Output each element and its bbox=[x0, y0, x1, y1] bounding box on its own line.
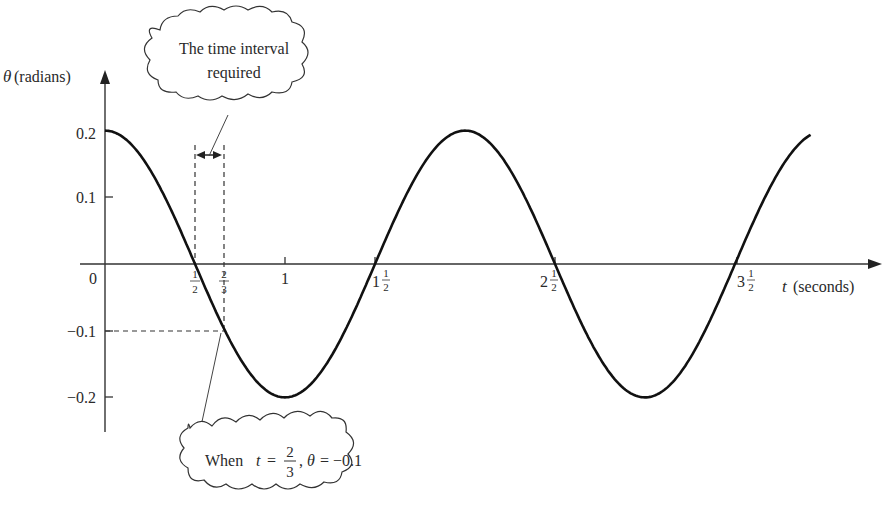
top-callout-line2: required bbox=[207, 64, 260, 82]
svg-text:3: 3 bbox=[221, 283, 227, 295]
x-tick-1-and-half: 1 1 2 bbox=[372, 267, 390, 293]
bottom-callout-frac-num: 2 bbox=[286, 444, 294, 460]
svg-text:2: 2 bbox=[383, 281, 389, 293]
svg-text:2: 2 bbox=[192, 283, 198, 295]
chart-canvas: The time interval required When t = 2 3 … bbox=[0, 0, 888, 517]
y-tick-neg0.1: −0.1 bbox=[67, 323, 96, 340]
bottom-cloud-callout bbox=[180, 411, 354, 489]
svg-text:1: 1 bbox=[372, 273, 380, 290]
svg-text:2: 2 bbox=[221, 268, 227, 280]
svg-text:1: 1 bbox=[192, 268, 198, 280]
y-axis-unit: (radians) bbox=[14, 68, 71, 86]
bottom-callout-comma: , bbox=[299, 452, 303, 469]
bottom-callout-frac-den: 3 bbox=[286, 464, 294, 480]
y-axis-arrow-icon bbox=[100, 70, 110, 84]
x-axis-unit: (seconds) bbox=[793, 278, 854, 296]
x-axis-arrow-icon bbox=[868, 259, 882, 269]
top-callout-line1: The time interval bbox=[179, 40, 290, 57]
svg-text:3: 3 bbox=[737, 273, 745, 290]
x-tick-2-and-half: 2 1 2 bbox=[540, 267, 558, 293]
svg-text:2: 2 bbox=[748, 281, 754, 293]
x-tick-1: 1 bbox=[281, 270, 289, 287]
y-tick-neg0.2: −0.2 bbox=[67, 389, 96, 406]
bottom-callout-when: When bbox=[205, 452, 243, 469]
top-callout-pointer bbox=[209, 115, 228, 156]
x-tick-3-and-half: 3 1 2 bbox=[737, 267, 755, 293]
dashed-guides bbox=[105, 145, 224, 331]
svg-text:2: 2 bbox=[540, 273, 548, 290]
svg-text:1: 1 bbox=[748, 267, 754, 279]
svg-text:1: 1 bbox=[383, 267, 389, 279]
bottom-callout-theta: θ bbox=[307, 452, 315, 469]
origin-label: 0 bbox=[89, 270, 97, 287]
svg-text:1: 1 bbox=[551, 267, 557, 279]
svg-text:2: 2 bbox=[551, 281, 557, 293]
x-ticks bbox=[285, 257, 737, 264]
axes bbox=[80, 70, 882, 432]
y-tick-0.2: 0.2 bbox=[76, 125, 96, 142]
x-axis-symbol: t bbox=[782, 277, 788, 296]
bottom-callout-value: = −0.1 bbox=[320, 452, 362, 469]
y-tick-0.1: 0.1 bbox=[76, 189, 96, 206]
y-ticks bbox=[105, 197, 113, 397]
y-axis-symbol: θ bbox=[3, 67, 11, 86]
bottom-callout-t: t bbox=[256, 452, 261, 469]
bottom-callout-eq: = bbox=[267, 452, 276, 469]
